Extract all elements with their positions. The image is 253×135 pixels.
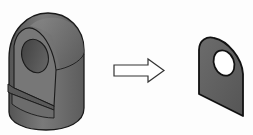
result-planar-face <box>199 38 243 117</box>
diagram-canvas: 3D solid part (rounded-top block with th… <box>0 0 253 135</box>
face-outline <box>199 38 243 117</box>
right-arrow-icon <box>114 59 164 82</box>
source-3d-part <box>8 13 84 130</box>
